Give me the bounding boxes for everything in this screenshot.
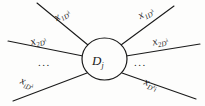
center-node-label-sub: j [101, 61, 103, 70]
factor-node-diagram: x1Dλ x2Dλ xiDλ x1Dλ x2Dλ xDλi ... ... Dj [0, 0, 205, 106]
center-node-label: Dj [92, 51, 104, 69]
center-node-label-var: D [92, 53, 101, 68]
ellipsis-right: ... [134, 56, 147, 68]
ellipsis-left: ... [38, 56, 51, 68]
center-node-circle [82, 38, 127, 80]
